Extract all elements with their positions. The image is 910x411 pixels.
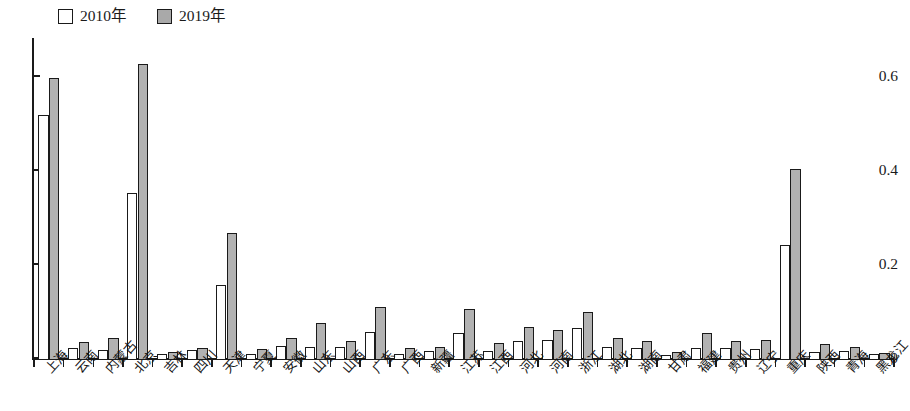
x-tick-mark [33,360,35,367]
bar-group [157,38,178,360]
bar-2010 [216,285,226,360]
bar-2010 [127,193,137,360]
bar-group [127,38,148,360]
bar-group [542,38,563,360]
bar-2019 [790,169,800,360]
bar-group [661,38,682,360]
bar-group [216,38,237,360]
bar-group [335,38,356,360]
bar-group [483,38,504,360]
bars-container [34,38,894,360]
bar-group [720,38,741,360]
bar-group [276,38,297,360]
bar-group [187,38,208,360]
bar-2019 [227,233,237,360]
bar-group [424,38,445,360]
bar-2019 [138,64,148,360]
bar-group [246,38,267,360]
bar-2010 [780,245,790,360]
bar-group [572,38,593,360]
bar-group [839,38,860,360]
bar-group [691,38,712,360]
bar-2019 [49,78,59,360]
bar-group [68,38,89,360]
bar-group [869,38,890,360]
bar-group [453,38,474,360]
bar-group [513,38,534,360]
bar-group [780,38,801,360]
bar-group [631,38,652,360]
bar-group [394,38,415,360]
bar-group [305,38,326,360]
bar-group [750,38,771,360]
bar-group [602,38,623,360]
bar-group [365,38,386,360]
bar-group [809,38,830,360]
bar-2010 [38,115,48,360]
bar-group [38,38,59,360]
bar-group [98,38,119,360]
